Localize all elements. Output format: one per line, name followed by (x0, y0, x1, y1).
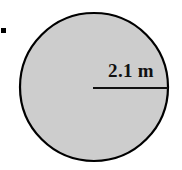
circle-diagram-figure: 2.1 m (0, 0, 182, 170)
list-bullet-marker (1, 28, 6, 33)
diagram-svg-canvas (0, 0, 182, 170)
